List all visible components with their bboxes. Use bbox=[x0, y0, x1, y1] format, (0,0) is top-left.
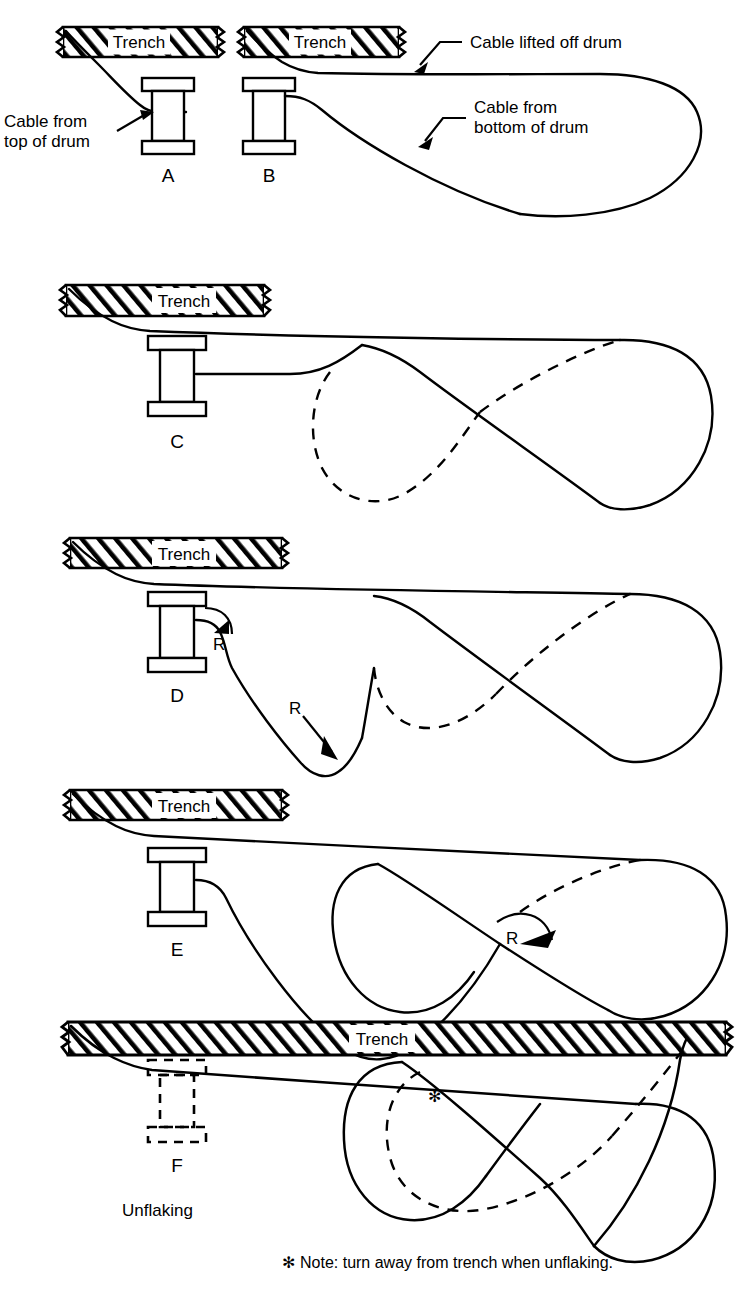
panel-letter-B: B bbox=[263, 165, 276, 186]
panel-letter-D: D bbox=[170, 685, 184, 706]
callout-cable-lifted-off-drum: Cable lifted off drum bbox=[414, 33, 622, 74]
trench-label-F: Trench bbox=[356, 1030, 408, 1049]
note-text: Note: turn away from trench when unflaki… bbox=[300, 1254, 613, 1271]
trench-label-A: Trench bbox=[113, 33, 165, 52]
callout-bottom-line2: bottom of drum bbox=[474, 118, 588, 137]
radius-mark-E-1: R bbox=[497, 914, 556, 948]
radius-label-D-1: R bbox=[213, 635, 225, 654]
panel-D-drum bbox=[148, 592, 206, 672]
callout-top-line2: top of drum bbox=[4, 132, 90, 151]
panel-A: Trench A Cable from top of drum Trenc bbox=[0, 0, 746, 1297]
callout-lifted-off-drum-text: Cable lifted off drum bbox=[470, 33, 622, 52]
panel-B-trench: Trench bbox=[238, 27, 405, 57]
trench-label-E: Trench bbox=[158, 797, 210, 816]
panel-letter-A: A bbox=[162, 165, 175, 186]
unflaking-caption: Unflaking bbox=[122, 1201, 193, 1220]
panel-B-drum bbox=[243, 78, 295, 154]
panel-F-cable-solid bbox=[71, 1026, 715, 1262]
panel-F-cable-dashed bbox=[387, 1046, 686, 1211]
radius-mark-D-2: R bbox=[289, 699, 338, 760]
panel-C-drum bbox=[148, 336, 206, 416]
callout-top-line1: Cable from bbox=[4, 112, 87, 131]
panel-C-trench: Trench bbox=[60, 285, 270, 316]
panel-E-cable-dashed bbox=[520, 860, 640, 912]
trench-label-C: Trench bbox=[158, 292, 210, 311]
panel-letter-F: F bbox=[171, 1155, 183, 1176]
trench-label-D: Trench bbox=[158, 545, 210, 564]
radius-label-E-1: R bbox=[506, 929, 518, 948]
radius-mark-D-1: R bbox=[205, 608, 232, 654]
panel-F-trench: Trench bbox=[62, 1022, 732, 1055]
note-marker: ✻ bbox=[282, 1254, 295, 1271]
panel-letter-E: E bbox=[171, 939, 184, 960]
callout-bottom-line1: Cable from bbox=[474, 98, 557, 117]
panel-D-cable-dashed bbox=[374, 594, 630, 728]
asterisk-marker-F: ✻ bbox=[428, 1088, 441, 1105]
callout-cable-from-bottom-of-drum: Cable from bottom of drum bbox=[418, 98, 588, 150]
panel-A-drum bbox=[142, 78, 194, 154]
panel-E-drum bbox=[148, 848, 206, 926]
panel-letter-C: C bbox=[170, 431, 184, 452]
figure-canvas: Trench A Cable from top of drum Trenc bbox=[0, 0, 746, 1297]
panel-C-cable-dashed bbox=[313, 340, 620, 501]
callout-cable-from-top-of-drum: Cable from top of drum bbox=[4, 110, 154, 151]
trench-label-B: Trench bbox=[294, 33, 346, 52]
radius-label-D-2: R bbox=[289, 699, 301, 718]
panel-A-trench: Trench bbox=[57, 27, 224, 57]
figure-note: ✻ Note: turn away from trench when unfla… bbox=[282, 1254, 613, 1271]
